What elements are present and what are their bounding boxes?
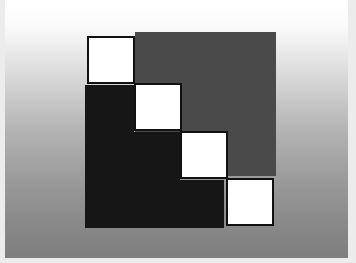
diagonal-square-1 xyxy=(87,36,135,84)
diagonal-square-2 xyxy=(134,83,182,131)
diagonal-square-3 xyxy=(180,131,228,179)
diagonal-square-4 xyxy=(226,178,274,226)
